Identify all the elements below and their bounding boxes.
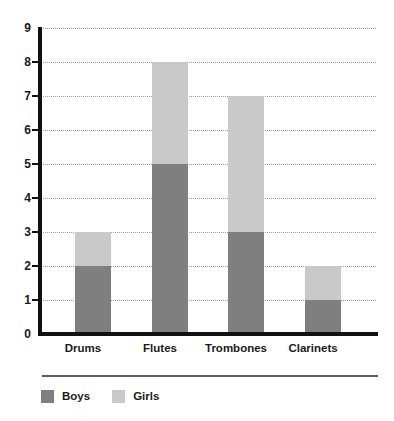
gridline-7 [41,96,376,97]
legend-label-girls: Girls [133,391,159,403]
legend-swatch-boys-icon [41,390,54,403]
x-axis-line [38,332,378,336]
y-axis-label-6: 6 [5,124,31,136]
y-axis-labels: 9 8 7 6 5 4 3 2 1 0 [0,0,31,421]
y-tick-7 [32,95,39,97]
bar-segment-boys [75,266,111,334]
bar-drums[interactable] [75,232,111,334]
x-axis-label-clarinets: Clarinets [275,342,351,354]
bar-trombones[interactable] [228,96,264,334]
y-tick-5 [32,163,39,165]
legend-swatch-girls-icon [112,390,125,403]
legend-separator [42,375,378,377]
gridline-5 [41,164,376,165]
y-axis-label-3: 3 [5,226,31,238]
bar-segment-girls [75,232,111,266]
bar-clarinets[interactable] [305,266,341,334]
gridline-4 [41,198,376,199]
plot-area [41,28,376,334]
x-axis-label-drums: Drums [45,342,121,354]
legend-item-boys[interactable]: Boys [41,390,90,403]
gridline-9 [41,28,376,29]
y-tick-1 [32,299,39,301]
x-axis-label-flutes: Flutes [122,342,198,354]
y-tick-4 [32,197,39,199]
y-axis-label-1: 1 [5,294,31,306]
y-tick-8 [32,61,39,63]
y-axis-line [38,27,42,336]
y-axis-label-2: 2 [5,260,31,272]
bar-segment-girls [305,266,341,300]
y-axis-label-9: 9 [5,22,31,34]
bar-flutes[interactable] [152,62,188,334]
legend: Boys Girls [41,390,159,403]
legend-item-girls[interactable]: Girls [112,390,159,403]
gridline-8 [41,62,376,63]
y-axis-label-7: 7 [5,90,31,102]
bar-segment-boys [228,232,264,334]
legend-label-boys: Boys [62,391,90,403]
y-axis-label-4: 4 [5,192,31,204]
y-axis-label-8: 8 [5,56,31,68]
y-tick-3 [32,231,39,233]
bar-segment-girls [152,62,188,164]
y-axis-label-5: 5 [5,158,31,170]
gridline-6 [41,130,376,131]
y-tick-2 [32,265,39,267]
stacked-bar-chart: 9 8 7 6 5 4 3 2 1 0 Drums Flutes Trombon… [0,0,394,421]
bar-segment-girls [228,96,264,232]
y-tick-6 [32,129,39,131]
bar-segment-boys [152,164,188,334]
x-axis-label-trombones: Trombones [198,342,274,354]
y-axis-label-0: 0 [5,328,31,340]
bar-segment-boys [305,300,341,334]
